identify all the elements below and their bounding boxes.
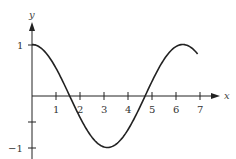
x-tick-label-6: 6 (173, 104, 179, 115)
x-tick-label-4: 4 (125, 104, 131, 115)
y-tick-label-minus1: −1 (8, 143, 23, 154)
x-tick-label-5: 5 (149, 104, 155, 115)
x-axis-arrow-icon (211, 93, 220, 99)
y-axis-arrow-icon (29, 22, 35, 31)
cosine-plot: y x 1 −1 1 2 3 4 5 6 7 (0, 0, 236, 159)
y-axis-label: y (28, 9, 35, 20)
x-axis-label: x (224, 90, 230, 101)
y-tick-label-1: 1 (17, 40, 23, 51)
x-tick-label-7: 7 (197, 104, 203, 115)
x-tick-label-3: 3 (101, 104, 107, 115)
x-tick-label-1: 1 (53, 104, 59, 115)
